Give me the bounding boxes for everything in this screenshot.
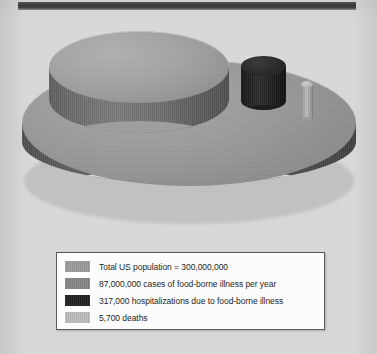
cylinder-cases-top xyxy=(49,31,229,103)
cylinder-hospitalizations-top xyxy=(241,56,286,76)
figure-page: Total US population = 300,000,000 87,000… xyxy=(0,0,377,354)
legend-swatch-cases xyxy=(65,278,90,289)
legend-item: 5,700 deaths xyxy=(57,309,324,326)
legend-swatch-total-us-population xyxy=(65,261,90,272)
cylinder-deaths xyxy=(301,81,313,125)
cylinder-deaths-wall-texture xyxy=(301,85,313,120)
legend-item-label: 5,700 deaths xyxy=(99,313,148,323)
legend-item: 87,000,000 cases of food-borne illness p… xyxy=(57,275,324,292)
legend-item-label: 317,000 hospitalizations due to food-bor… xyxy=(99,296,283,306)
cylinder-foodborne-illness-cases xyxy=(49,31,229,135)
chart-legend: Total US population = 300,000,000 87,000… xyxy=(56,252,325,330)
legend-item: Total US population = 300,000,000 xyxy=(57,258,324,275)
legend-swatch-deaths xyxy=(65,312,90,323)
cylinder-deaths-top xyxy=(301,81,313,88)
legend-swatch-hospitalizations xyxy=(65,295,90,306)
proportional-cylinder-chart xyxy=(0,0,377,250)
legend-item: 317,000 hospitalizations due to food-bor… xyxy=(57,292,324,309)
legend-item-label: 87,000,000 cases of food-borne illness p… xyxy=(99,279,276,289)
cylinder-hospitalizations xyxy=(241,56,286,114)
cylinder-deaths-wall xyxy=(301,85,313,120)
legend-item-label: Total US population = 300,000,000 xyxy=(99,262,228,272)
